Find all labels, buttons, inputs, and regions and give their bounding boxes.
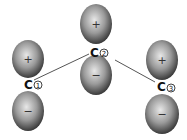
plus-sign: + [157, 54, 166, 67]
atom-number: 2 [102, 50, 106, 58]
minus-sign: − [157, 108, 166, 121]
minus-sign: − [91, 69, 100, 82]
atom-label: C [90, 46, 99, 60]
orbital-diagram: + − C 1 + − C 2 + − C 3 [0, 0, 187, 140]
atom-c1: + − C 1 [12, 40, 44, 131]
atom-label: C [157, 80, 166, 94]
atom-c2: + − C 2 [80, 4, 112, 95]
atom-number: 3 [169, 85, 173, 93]
plus-sign: + [23, 53, 32, 66]
minus-sign: − [23, 105, 32, 118]
atom-c3: + − C 3 [145, 40, 179, 134]
atom-number: 1 [36, 82, 40, 90]
plus-sign: + [91, 18, 100, 31]
atom-label: C [24, 78, 33, 92]
